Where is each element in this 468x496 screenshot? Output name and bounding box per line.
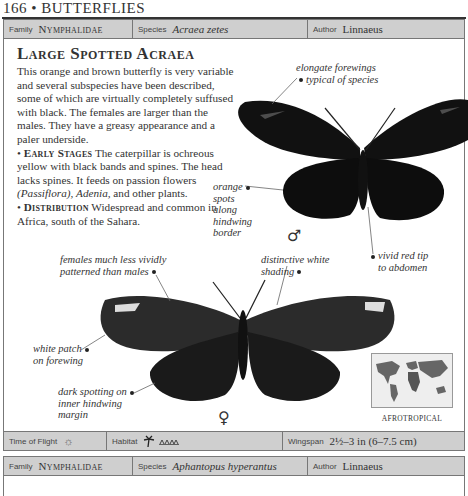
genus-passiflora: (Passiflora),	[17, 187, 73, 199]
sun-icon: ☼	[63, 435, 73, 447]
callout-line: shading	[261, 266, 294, 277]
callout-line: females much less vividly	[60, 254, 166, 266]
callout-line: vivid red tip	[378, 250, 428, 261]
author-label: Author	[313, 25, 337, 34]
callout-white-shading: distinctive white shading	[261, 254, 330, 277]
callout-line: patterned than males	[60, 266, 149, 277]
habitat-cell: Habitat	[107, 432, 283, 450]
species-cell: Species Aphantopus hyperantus	[133, 457, 308, 475]
grassland-icon	[159, 437, 179, 445]
callout-orange-spots: orange spots along hindwing border	[213, 181, 253, 239]
callout-forewings: elongate forewings typical of species	[296, 62, 378, 85]
family-value: Nymphalidae	[39, 23, 103, 35]
author-label: Author	[313, 462, 337, 471]
species-label: Species	[138, 462, 166, 471]
callout-line: dark spotting on	[58, 386, 127, 397]
callout-dot	[152, 270, 156, 274]
species-value: Acraea zetes	[172, 23, 228, 35]
callout-line: on forewing	[33, 355, 92, 367]
distribution-heading: Distribution	[24, 201, 89, 213]
entry-title: Large Spotted Acraea	[17, 44, 194, 64]
bullet: •	[17, 201, 24, 213]
callout-dark-spotting: dark spotting on inner hindwing margin	[58, 386, 137, 421]
callout-females: females much less vividly patterned than…	[60, 254, 166, 277]
entry2-info-bar: Family Nymphalidae Species Aphantopus hy…	[3, 456, 465, 476]
entry1-info-bar: Family Nymphalidae Species Acraea zetes …	[3, 19, 465, 39]
author-value: Linnaeus	[343, 460, 383, 472]
callout-line: spots	[213, 193, 253, 205]
author-value: Linnaeus	[343, 23, 383, 35]
callout-line: inner hindwing	[58, 398, 137, 410]
species-cell: Species Acraea zetes	[133, 20, 308, 38]
section-title: BUTTERFLIES	[41, 0, 145, 16]
early-stages-end: and other plants.	[113, 187, 187, 199]
early-stages-heading: Early Stages	[24, 147, 93, 159]
callout-dot	[299, 78, 303, 82]
callout-dot	[85, 348, 89, 352]
callout-red-tip: vivid red tip to abdomen	[368, 250, 428, 273]
world-map-icon	[372, 354, 452, 407]
habitat-label: Habitat	[112, 437, 137, 446]
callout-line: typical of species	[306, 74, 378, 85]
family-cell: Family Nymphalidae	[4, 20, 133, 38]
callout-line: distinctive white	[261, 254, 330, 266]
family-label: Family	[9, 25, 33, 34]
wingspan-cell: Wingspan 2½–3 in (6–7.5 cm)	[283, 432, 464, 450]
callout-line: orange	[213, 181, 243, 192]
entry-description: This orange and brown butterfly is very …	[17, 65, 239, 228]
callout-line: border	[213, 227, 253, 239]
species-value: Aphantopus hyperantus	[172, 460, 276, 472]
callout-line: elongate forewings	[296, 62, 378, 74]
species-label: Species	[138, 25, 166, 34]
author-cell: Author Linnaeus	[308, 20, 464, 38]
callout-line: hindwing	[213, 216, 253, 228]
wingspan-value: 2½–3 in (6–7.5 cm)	[330, 435, 417, 447]
callout-dot	[297, 270, 301, 274]
description-text: This orange and brown butterfly is very …	[17, 65, 239, 147]
callout-dot	[246, 186, 250, 190]
family-label: Family	[9, 462, 33, 471]
palm-tree-icon	[143, 435, 155, 447]
callout-dot	[130, 391, 134, 395]
page-header: 166 • BUTTERFLIES	[3, 0, 145, 17]
female-symbol: ♀	[218, 408, 230, 427]
time-of-flight-label: Time of Flight	[9, 437, 57, 446]
wingspan-label: Wingspan	[288, 437, 324, 446]
world-map	[371, 353, 453, 408]
page-number: 166	[3, 0, 27, 16]
male-symbol: ♂	[287, 226, 301, 245]
family-value: Nymphalidae	[39, 460, 103, 472]
entry2-panel	[3, 476, 465, 496]
callout-line: to abdomen	[368, 262, 428, 274]
callout-line: margin	[58, 409, 137, 421]
bullet: •	[17, 147, 24, 159]
callout-dot	[371, 255, 375, 259]
bullet: •	[31, 0, 37, 16]
family-cell: Family Nymphalidae	[4, 457, 133, 475]
callout-line: along	[213, 204, 253, 216]
region-label: AFROTROPICAL	[371, 414, 453, 423]
callout-line: white patch	[33, 343, 82, 354]
callout-white-patch: white patch on forewing	[33, 343, 92, 366]
entry1-footer-bar: Time of Flight ☼ Habitat Wingspan 2½–3 i…	[3, 431, 465, 451]
time-of-flight-cell: Time of Flight ☼	[4, 432, 107, 450]
author-cell: Author Linnaeus	[308, 457, 464, 475]
genus-adenia: Adenia,	[76, 187, 111, 199]
